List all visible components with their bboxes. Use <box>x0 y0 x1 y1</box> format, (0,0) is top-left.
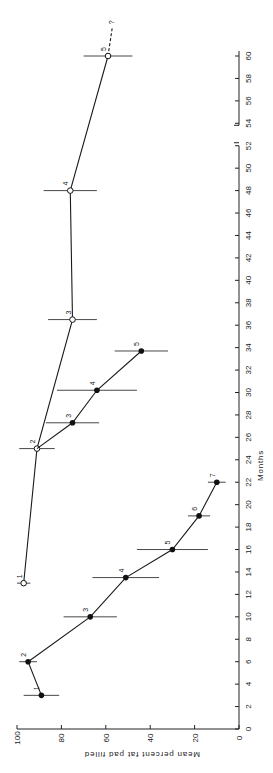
extension-label: ? <box>108 20 115 24</box>
series-line <box>28 482 217 695</box>
data-point-filled <box>94 387 100 393</box>
x-tick-label: 42 <box>244 253 253 262</box>
x-tick-label: 38 <box>244 298 253 307</box>
data-point-label: 3 <box>65 311 72 315</box>
y-tick-label: 20 <box>191 733 200 742</box>
data-point-filled <box>87 614 93 620</box>
fat-pad-chart: 0246810121416182022242628303234363840424… <box>0 0 273 773</box>
x-tick-label: 36 <box>244 320 253 329</box>
x-axis-title: Months <box>256 450 265 481</box>
data-point-open <box>105 53 111 59</box>
x-tick-label: 56 <box>244 96 253 105</box>
data-point-filled <box>170 547 176 553</box>
x-tick-label: 18 <box>244 522 253 531</box>
data-point-filled <box>139 348 145 354</box>
y-tick-label: 40 <box>146 733 155 742</box>
x-tick-label: 0 <box>244 726 253 731</box>
x-tick-label: 32 <box>244 365 253 374</box>
data-point-open <box>67 188 73 194</box>
data-point-filled <box>70 420 76 426</box>
data-point-filled <box>25 659 31 665</box>
y-tick-label: 80 <box>57 733 66 742</box>
data-point-filled <box>196 513 202 519</box>
data-point-label: 7 <box>209 473 216 477</box>
x-tick-label: 22 <box>244 477 253 486</box>
x-tick-label: 16 <box>244 545 253 554</box>
data-point-open <box>70 317 76 323</box>
data-point-label: 2 <box>29 440 36 444</box>
data-point-label: 4 <box>89 381 96 385</box>
series-line <box>37 351 141 449</box>
series-open-circles: ?12345 <box>16 20 133 586</box>
y-tick-label: 60 <box>102 733 111 742</box>
x-tick-label: 6 <box>244 659 253 664</box>
data-point-label: 3 <box>65 414 72 418</box>
y-tick-label: 0 <box>235 735 244 740</box>
y-axis-title: Mean percent fat pad filled <box>84 750 200 759</box>
series-layer: ?123451234567345 <box>16 20 226 698</box>
x-tick-label: 26 <box>244 432 253 441</box>
data-point-label: 3 <box>82 608 89 612</box>
x-tick-label: 24 <box>244 455 253 464</box>
series-filled-circles-late: 345 <box>37 342 168 449</box>
x-tick-label: 30 <box>244 388 253 397</box>
axes: 0246810121416182022242628303234363840424… <box>13 51 253 745</box>
data-point-label: 4 <box>118 569 125 573</box>
x-tick-label: 2 <box>244 704 253 709</box>
data-point-label: 1 <box>33 686 40 690</box>
x-tick-label: 60 <box>244 51 253 60</box>
x-tick-label: 12 <box>244 589 253 598</box>
data-point-label: 5 <box>133 342 140 346</box>
x-tick-label: 8 <box>244 636 253 641</box>
x-tick-label: 40 <box>244 275 253 284</box>
x-tick-label: 46 <box>244 208 253 217</box>
x-tick-label: 14 <box>244 567 253 576</box>
x-tick-label: 58 <box>244 73 253 82</box>
x-tick-label: 28 <box>244 410 253 419</box>
data-point-label: 1 <box>16 574 23 578</box>
extension-dashed-line <box>108 26 112 56</box>
data-point-filled <box>123 575 129 581</box>
x-tick-label: 4 <box>244 681 253 686</box>
data-point-filled <box>214 479 220 485</box>
data-point-label: 5 <box>100 47 107 51</box>
data-point-label: 6 <box>191 507 198 511</box>
x-tick-label: 48 <box>244 186 253 195</box>
series-filled-circles-early: 1234567 <box>19 473 225 698</box>
x-tick-label: 44 <box>244 230 253 239</box>
x-tick-label: 10 <box>244 612 253 621</box>
data-point-filled <box>39 693 45 699</box>
x-tick-label: 52 <box>244 141 253 150</box>
x-tick-label: 50 <box>244 163 253 172</box>
x-tick-label: 54 <box>244 118 253 127</box>
x-tick-label: 20 <box>244 500 253 509</box>
data-point-label: 4 <box>62 182 69 186</box>
data-point-open <box>21 580 27 586</box>
x-tick-label: 34 <box>244 343 253 352</box>
data-point-label: 5 <box>164 540 171 544</box>
data-point-label: 2 <box>20 653 27 657</box>
y-tick-label: 100 <box>13 731 22 745</box>
